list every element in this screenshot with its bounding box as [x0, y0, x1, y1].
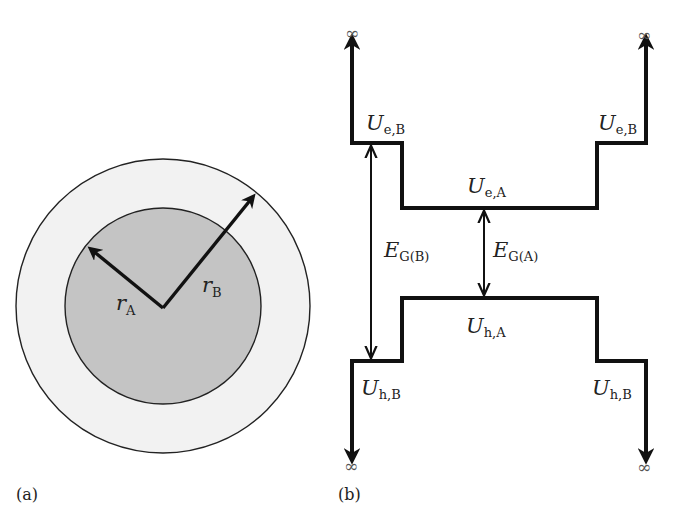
ue-a-label: Ue,A — [467, 174, 507, 200]
panel-b-label: (b) — [338, 485, 361, 504]
bandgap-a-label: EG(A) — [492, 238, 538, 264]
core-shell-figure: rA rB (a) ∞ ∞ ∞ ∞ Ue,B Ue,B Ue,A Uh,A Uh… — [0, 0, 677, 524]
infinity-top-right: ∞ — [637, 25, 651, 45]
infinity-top-left: ∞ — [345, 23, 359, 43]
infinity-bottom-right: ∞ — [637, 457, 651, 477]
panel-a-label: (a) — [16, 485, 38, 504]
uh-b-left-label: Uh,B — [361, 376, 401, 402]
bandgap-b-label: EG(B) — [383, 238, 429, 264]
ue-b-left-label: Ue,B — [366, 111, 405, 137]
panel-b: ∞ ∞ ∞ ∞ Ue,B Ue,B Ue,A Uh,A Uh,B Uh,B EG… — [338, 23, 651, 504]
uh-a-label: Uh,A — [466, 314, 506, 340]
ue-b-right-label: Ue,B — [598, 111, 637, 137]
uh-b-right-label: Uh,B — [592, 376, 632, 402]
panel-a: rA rB (a) — [16, 159, 310, 504]
infinity-bottom-left: ∞ — [344, 456, 358, 476]
